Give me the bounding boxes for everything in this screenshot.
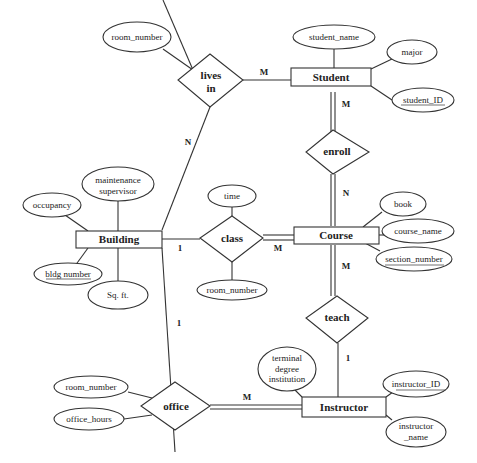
attribute-bldg-number: bldg number bbox=[34, 263, 102, 285]
attribute-instructor-id: instructor_ID bbox=[383, 371, 449, 397]
line-instructor-name bbox=[386, 415, 392, 420]
entity-instructor-label: Instructor bbox=[320, 401, 368, 413]
svg-text:occupancy: occupancy bbox=[33, 200, 72, 210]
attribute-office-room-number: room_number bbox=[54, 376, 128, 398]
cardinality-office-instructor: M bbox=[243, 392, 252, 402]
relationship-teach-label: teach bbox=[324, 311, 349, 323]
relationship-lives-in: lives in bbox=[178, 54, 243, 107]
svg-text:institution: institution bbox=[269, 374, 306, 384]
attribute-book: book bbox=[380, 192, 426, 216]
attribute-class-time: time bbox=[208, 185, 256, 207]
cardinality-office-building: 1 bbox=[177, 318, 182, 328]
relationship-teach: teach bbox=[306, 296, 368, 343]
relationship-class: class bbox=[200, 216, 263, 262]
attribute-sq-ft: Sq. ft. bbox=[88, 281, 148, 309]
line-office-hours bbox=[124, 415, 152, 419]
entity-student: Student bbox=[291, 68, 371, 86]
attribute-section-number: section_number bbox=[376, 247, 452, 271]
svg-text:supervisor: supervisor bbox=[99, 186, 137, 196]
svg-text:office_hours: office_hours bbox=[66, 414, 112, 424]
entity-instructor: Instructor bbox=[302, 397, 386, 417]
relationship-lives-in-label-1: lives bbox=[201, 69, 222, 81]
svg-text:Sq. ft.: Sq. ft. bbox=[107, 290, 129, 300]
attribute-major: major bbox=[387, 40, 437, 64]
attribute-student-name: student_name bbox=[293, 25, 375, 49]
attribute-course-name: course_name bbox=[382, 219, 454, 243]
svg-text:student_ID: student_ID bbox=[403, 95, 443, 105]
svg-text:_name: _name bbox=[403, 432, 428, 442]
entity-building-label: Building bbox=[99, 233, 140, 245]
line-student-major bbox=[371, 59, 392, 69]
cardinality-enroll-course: N bbox=[343, 188, 350, 198]
relationship-enroll: enroll bbox=[306, 130, 369, 174]
svg-text:room_number: room_number bbox=[207, 285, 258, 295]
svg-text:terminal: terminal bbox=[272, 353, 302, 363]
svg-text:student_name: student_name bbox=[309, 32, 359, 42]
attribute-livesin-room-number: room_number bbox=[103, 22, 171, 52]
entity-building: Building bbox=[76, 231, 162, 248]
svg-text:course_name: course_name bbox=[394, 226, 441, 236]
line-office-roomnumber bbox=[128, 392, 152, 398]
line-instructor-terminal bbox=[295, 390, 302, 397]
relationship-class-label: class bbox=[221, 232, 244, 244]
attribute-terminal-degree-institution: terminal degree institution bbox=[258, 347, 316, 391]
attribute-student-id: student_ID bbox=[392, 88, 454, 112]
line-livesin-building bbox=[162, 107, 210, 230]
relationship-enroll-label: enroll bbox=[323, 145, 350, 157]
svg-text:maintenance: maintenance bbox=[95, 175, 140, 185]
svg-text:major: major bbox=[402, 47, 423, 57]
er-diagram: Student Course Building Instructor lives… bbox=[0, 0, 477, 463]
svg-text:instructor_ID: instructor_ID bbox=[392, 379, 441, 389]
attribute-instructor-name: instructor _name bbox=[386, 417, 446, 447]
cardinality-class-building: 1 bbox=[178, 243, 183, 253]
cardinality-class-course: M bbox=[274, 243, 283, 253]
relationship-office-label: office bbox=[163, 400, 189, 412]
svg-text:room_number: room_number bbox=[112, 32, 163, 42]
attribute-maintenance-supervisor: maintenance supervisor bbox=[82, 167, 154, 201]
line-course-book bbox=[363, 212, 382, 227]
line-building-occupancy bbox=[65, 215, 88, 231]
cardinality-teach-instructor: 1 bbox=[346, 353, 351, 363]
attribute-occupancy: occupancy bbox=[23, 193, 81, 217]
cardinality-livesin-student: M bbox=[260, 67, 269, 77]
svg-text:bldg number: bldg number bbox=[45, 269, 91, 279]
svg-text:room_number: room_number bbox=[66, 382, 117, 392]
entity-student-label: Student bbox=[313, 71, 350, 83]
line-student-id bbox=[371, 86, 392, 100]
cardinality-teach-course: M bbox=[342, 261, 351, 271]
attribute-office-hours: office_hours bbox=[54, 408, 124, 430]
svg-text:time: time bbox=[224, 191, 240, 201]
svg-text:section_number: section_number bbox=[385, 254, 443, 264]
attribute-class-room-number: room_number bbox=[197, 280, 267, 300]
relationship-office: office bbox=[141, 382, 210, 430]
relationship-lives-in-label-2: in bbox=[206, 82, 215, 94]
entity-course: Course bbox=[294, 227, 379, 244]
svg-text:instructor: instructor bbox=[399, 421, 434, 431]
cardinality-enroll-student: M bbox=[342, 99, 351, 109]
svg-text:degree: degree bbox=[275, 364, 299, 374]
svg-text:book: book bbox=[394, 199, 413, 209]
cardinality-livesin-building: N bbox=[185, 137, 192, 147]
entity-course-label: Course bbox=[319, 229, 353, 241]
